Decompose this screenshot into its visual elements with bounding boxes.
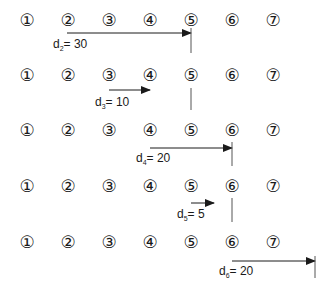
- node-7: ⑦: [264, 67, 282, 85]
- distance-label: d6= 20: [219, 265, 253, 282]
- distance-value: = 20: [230, 264, 254, 278]
- node-4: ④: [141, 122, 159, 140]
- node-6: ⑥: [223, 12, 241, 30]
- node-7: ⑦: [264, 178, 282, 196]
- distance-label: d5= 5: [177, 208, 205, 225]
- node-7: ⑦: [264, 234, 282, 252]
- node-3: ③: [100, 12, 118, 30]
- distance-value: = 30: [64, 37, 88, 51]
- node-1: ①: [18, 122, 36, 140]
- node-1: ①: [18, 67, 36, 85]
- node-5: ⑤: [182, 12, 200, 30]
- node-1: ①: [18, 178, 36, 196]
- distance-var: d: [95, 95, 102, 109]
- distance-value: = 5: [188, 207, 205, 221]
- distance-value: = 10: [106, 95, 130, 109]
- node-1: ①: [18, 234, 36, 252]
- distance-label: d2= 30: [53, 38, 87, 55]
- distance-label: d3= 10: [95, 96, 129, 113]
- node-2: ②: [59, 234, 77, 252]
- node-4: ④: [141, 12, 159, 30]
- node-2: ②: [59, 12, 77, 30]
- node-6: ⑥: [223, 234, 241, 252]
- node-3: ③: [100, 122, 118, 140]
- node-2: ②: [59, 122, 77, 140]
- node-4: ④: [141, 67, 159, 85]
- node-7: ⑦: [264, 12, 282, 30]
- distance-label: d4= 20: [136, 152, 170, 169]
- distance-var: d: [177, 207, 184, 221]
- distance-var: d: [53, 37, 60, 51]
- node-5: ⑤: [182, 234, 200, 252]
- node-6: ⑥: [223, 67, 241, 85]
- node-7: ⑦: [264, 122, 282, 140]
- arrows-layer: [0, 0, 335, 287]
- node-4: ④: [141, 234, 159, 252]
- distance-value: = 20: [147, 151, 171, 165]
- node-2: ②: [59, 178, 77, 196]
- node-3: ③: [100, 234, 118, 252]
- node-2: ②: [59, 67, 77, 85]
- distance-diagram: ①②③④⑤⑥⑦d2= 30①②③④⑤⑥⑦d3= 10①②③④⑤⑥⑦d4= 20①…: [0, 0, 335, 287]
- node-4: ④: [141, 178, 159, 196]
- node-3: ③: [100, 67, 118, 85]
- node-6: ⑥: [223, 122, 241, 140]
- distance-var: d: [136, 151, 143, 165]
- node-5: ⑤: [182, 178, 200, 196]
- node-5: ⑤: [182, 122, 200, 140]
- node-6: ⑥: [223, 178, 241, 196]
- node-5: ⑤: [182, 67, 200, 85]
- distance-var: d: [219, 264, 226, 278]
- node-3: ③: [100, 178, 118, 196]
- node-1: ①: [18, 12, 36, 30]
